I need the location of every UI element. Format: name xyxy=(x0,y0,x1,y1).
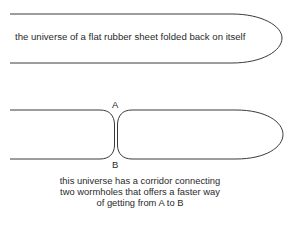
caption-line: of getting from A to B xyxy=(40,197,240,208)
point-a-label: A xyxy=(112,99,118,110)
wormhole-caption: this universe has a corridor connecting … xyxy=(40,175,240,209)
wormhole-sheet-left xyxy=(10,110,115,159)
point-b-label: B xyxy=(112,159,118,170)
wormhole-sheet-right xyxy=(118,110,284,159)
caption-line: this universe has a corridor connecting xyxy=(40,175,240,186)
caption-line: two wormholes that offers a faster way xyxy=(40,186,240,197)
folded-sheet-label: the universe of a flat rubber sheet fold… xyxy=(15,31,245,42)
